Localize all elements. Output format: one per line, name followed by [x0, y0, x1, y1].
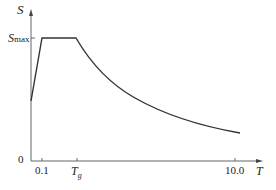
x-tick-label-0.1: 0.1 — [35, 165, 49, 176]
origin-label: 0 — [18, 154, 24, 165]
y-axis-arrow — [29, 9, 33, 16]
x-axis-arrow — [256, 159, 263, 163]
spectrum-chart — [0, 0, 276, 190]
x-tick-label-10: 10.0 — [225, 165, 244, 176]
spectrum-curve — [31, 38, 240, 133]
x-tick-label-tg: Tg — [71, 165, 82, 180]
y-axis-label: S — [17, 3, 24, 16]
smax-label: Smax — [8, 32, 30, 44]
x-axis-label: T — [256, 165, 263, 177]
